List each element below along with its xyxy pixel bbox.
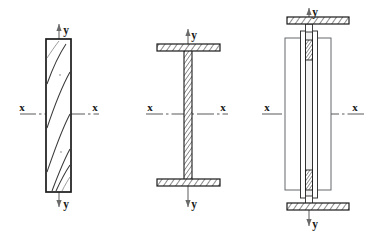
composite-bottom-cover-plate [287, 203, 349, 210]
y-axis-label-bottom-section-2: y [191, 198, 197, 211]
cross-section-diagram: x x y y x x y y [0, 0, 370, 234]
composite-connector-top [306, 24, 313, 32]
y-axis-label-top-section-1: y [63, 24, 69, 37]
y-axis-label-top-section-2: y [191, 29, 197, 42]
composite-end-block-bottom [306, 170, 313, 190]
y-axis-label-bottom-section-3: y [312, 218, 318, 231]
i-beam-web [184, 50, 192, 180]
x-axis-label-left-section-1: x [19, 101, 25, 113]
composite-top-cover-plate [287, 17, 349, 24]
y-axis-label-bottom-section-1: y [63, 198, 69, 211]
y-axis-label-top-section-3: y [312, 6, 318, 19]
composite-end-block-top [306, 40, 313, 60]
x-axis-label-right-section-2: x [220, 101, 226, 113]
diagram-canvas: x x y y x x y y [0, 0, 370, 234]
x-axis-label-right-section-3: x [352, 101, 358, 113]
composite-inner-plate-right [313, 31, 318, 198]
composite-inner-plate-left [301, 31, 306, 198]
x-axis-label-left-section-3: x [264, 101, 270, 113]
x-axis-label-right-section-1: x [92, 101, 98, 113]
i-beam-top-flange [157, 44, 220, 51]
x-axis-label-left-section-2: x [147, 101, 153, 113]
i-beam-bottom-flange [157, 179, 220, 186]
